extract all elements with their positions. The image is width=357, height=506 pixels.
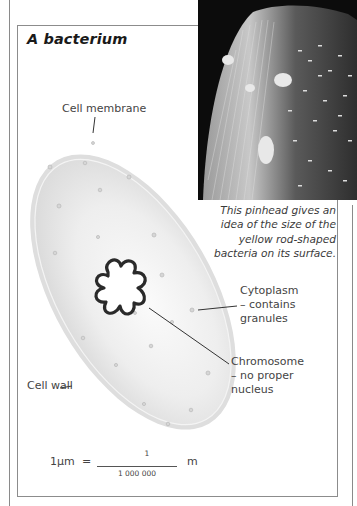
label-cell-wall: Cell wall <box>27 379 73 393</box>
equation-unit: m <box>187 455 198 468</box>
caption-line: This pinhead gives an <box>190 203 336 217</box>
equation-numerator: 1 <box>123 449 171 458</box>
cell-membrane-leader <box>93 117 95 133</box>
label-cytoplasm: Cytoplasm – contains granules <box>240 284 298 326</box>
pinhead-image <box>198 0 357 200</box>
label-cell-membrane: Cell membrane <box>62 102 146 116</box>
label-line: Cytoplasm <box>240 284 298 298</box>
label-line: nucleus <box>231 383 304 397</box>
photo-caption: This pinhead gives an idea of the size o… <box>190 203 336 261</box>
label-line: Chromosome <box>231 355 304 369</box>
caption-line: bacteria on its surface. <box>190 246 336 260</box>
equation-fraction-bar <box>97 466 177 467</box>
caption-line: yellow rod-shaped <box>190 232 336 246</box>
equation-equals: = <box>82 455 91 468</box>
caption-line: idea of the size of the <box>190 217 336 231</box>
label-chromosome: Chromosome – no proper nucleus <box>231 355 304 397</box>
pinhead-photo <box>198 0 357 200</box>
label-line: – no proper <box>231 369 304 383</box>
equation-lhs: 1µm <box>50 455 75 468</box>
label-line: – contains <box>240 298 298 312</box>
equation-denominator: 1 000 000 <box>97 469 177 478</box>
label-line: granules <box>240 312 298 326</box>
